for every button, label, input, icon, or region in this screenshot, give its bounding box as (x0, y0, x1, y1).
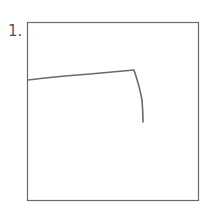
frame-box (28, 23, 199, 201)
drawn-line (28, 70, 143, 122)
drawing-canvas (0, 0, 211, 209)
